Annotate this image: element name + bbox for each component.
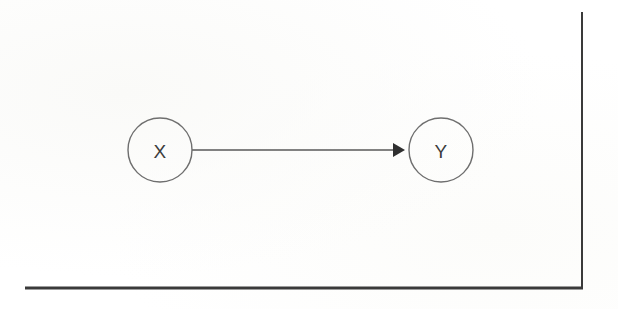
node-x-label: X xyxy=(153,141,166,162)
causal-diagram: X Y xyxy=(0,0,618,309)
node-x[interactable]: X xyxy=(128,118,192,182)
node-y-label: Y xyxy=(434,141,447,162)
arrowhead-icon xyxy=(393,143,405,157)
node-y[interactable]: Y xyxy=(409,118,473,182)
edge-x-to-y xyxy=(192,143,405,157)
figure-canvas: X Y xyxy=(0,0,618,309)
